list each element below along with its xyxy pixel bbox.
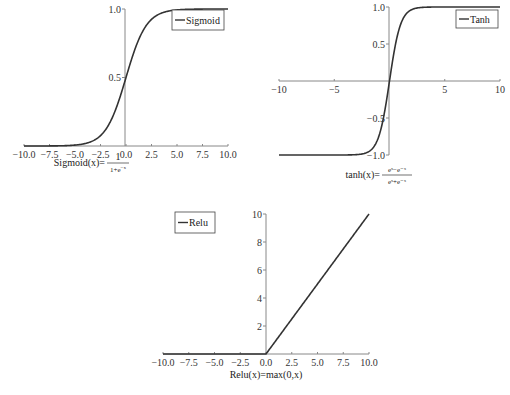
y-tick-label: 0.5 [109,72,122,83]
x-tick-label: 7.5 [337,357,350,368]
activation-functions-figure: −10.0−7.5−5.0−2.50.02.55.07.510.00.51.0S… [0,0,510,395]
legend: Sigmoid [172,10,224,30]
formula-denominator: eˣ+e⁻ˣ [388,178,407,186]
formula-caption: tanh(x)=eˣ−e⁻ˣeˣ+e⁻ˣ [345,166,412,186]
x-tick-label: 2.5 [145,149,158,160]
x-tick-label: −10.0 [12,149,35,160]
y-tick-label: 8 [257,237,262,248]
x-tick-label: 10.0 [360,357,378,368]
legend-label: Tanh [470,14,490,25]
formula-caption: Relu(x)=max(0,x) [230,369,303,381]
x-tick-label: 7.5 [196,149,209,160]
y-tick-label: 10 [252,209,262,220]
legend-label: Relu [189,217,208,228]
y-tick-label: 4 [257,293,262,304]
x-tick-label: 5.0 [311,357,324,368]
x-tick-label: −10.0 [151,357,174,368]
y-tick-label: 2 [257,321,262,332]
formula-numerator: eˣ−e⁻ˣ [388,166,407,174]
x-tick-label: 0.0 [120,149,133,160]
y-tick-label: 1.0 [109,4,122,15]
x-tick-label: −5 [329,84,340,95]
x-tick-label: 10.0 [219,149,237,160]
chart-relu: −10.0−7.5−5.0−2.50.02.55.07.510.0246810R… [151,209,377,382]
chart-sigmoid: −10.0−7.5−5.0−2.50.02.55.07.510.00.51.0S… [12,4,236,175]
legend: Tanh [456,10,498,28]
x-tick-label: −7.5 [180,357,198,368]
y-tick-label: 0.5 [373,39,386,50]
legend-label: Sigmoid [186,15,220,26]
y-tick-label: 6 [257,265,262,276]
legend: Relu [175,212,215,233]
y-tick-label: 1.0 [373,2,386,13]
x-tick-label: 0.0 [260,357,273,368]
formula-lhs: tanh(x)= [345,169,380,181]
x-tick-label: 5 [442,84,447,95]
x-tick-label: 10 [495,84,505,95]
x-tick-label: −2.5 [231,357,249,368]
formula-denominator: 1+e−x [110,165,126,174]
x-tick-label: −5.0 [205,357,223,368]
chart-tanh: −10−5510−1.0−0.50.51.0Tanhtanh(x)=eˣ−e⁻ˣ… [271,2,505,187]
x-tick-label: 2.5 [286,357,299,368]
x-tick-label: −10 [271,84,287,95]
x-tick-label: 5.0 [171,149,184,160]
formula-lhs: Sigmoid(x)= [54,157,106,169]
formula-text: Relu(x)=max(0,x) [230,369,303,381]
formula-numerator: 1 [116,151,121,162]
